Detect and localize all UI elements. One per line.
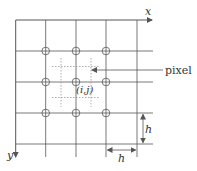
center-point-label: (i,j) [76, 84, 93, 95]
y-axis-label: y [6, 149, 14, 162]
pixel-label: pixel [165, 64, 192, 77]
pixel-grid-diagram: x y [0, 0, 197, 171]
x-axis-label: x [145, 5, 152, 18]
horizontal-spacing-label: h [118, 152, 125, 165]
vertical-spacing-label: h [145, 123, 152, 136]
horizontal-grid-lines [16, 51, 153, 144]
